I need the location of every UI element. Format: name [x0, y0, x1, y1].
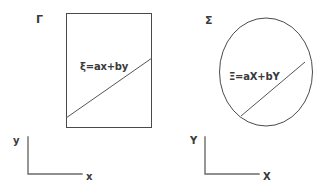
uppercase-axes — [205, 137, 259, 174]
equation-xi: ξ=ax+by — [80, 62, 128, 72]
axis-label-y-uppercase: Y — [190, 136, 197, 146]
axis-label-x-uppercase: X — [263, 172, 271, 182]
equation-xi-capital: Ξ=aX+bY — [229, 72, 280, 82]
axis-label-x-lowercase: x — [86, 172, 92, 182]
panel-label-gamma: Γ — [36, 14, 43, 25]
diagram-vector-layer — [0, 0, 324, 195]
panel-label-sigma: Σ — [205, 15, 213, 26]
lowercase-axes — [28, 137, 82, 174]
axis-label-y-lowercase: y — [13, 136, 20, 146]
diagram-canvas: Γ ξ=ax+by y x Σ Ξ=aX+bY Y X — [0, 0, 324, 195]
